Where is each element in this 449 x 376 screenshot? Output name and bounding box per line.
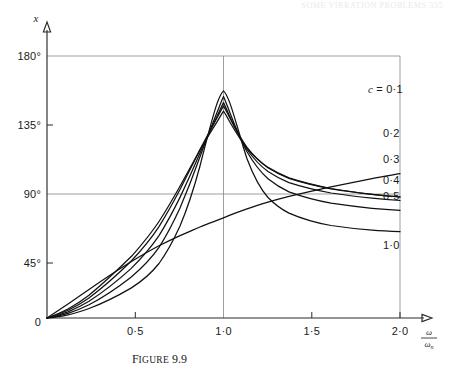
xtick-label-0-5: 0·5 [127, 325, 144, 337]
ytick-label-180: 180° [17, 50, 41, 62]
figure-caption: FIGURE 9.9 [0, 352, 319, 367]
figure-caption-number: 9.9 [172, 352, 187, 366]
y-axis-title: x [33, 12, 39, 24]
curve-label-0-2: 0·2 [383, 127, 400, 139]
xtick-label-2-0: 2·0 [392, 325, 409, 337]
x-axis-tick-labels: 0·5 1·0 1·5 2·0 [127, 325, 408, 337]
phase-angle-chart: 180° 135° 90° 45° 0 0·5 1·0 1·5 2·0 x ω … [0, 0, 449, 352]
figure-container: SOME VIBRATION PROBLEMS 335 180° 135° [0, 0, 449, 376]
x-axis-title-numerator: ω [426, 327, 432, 337]
x-axis-ticks [135, 312, 400, 318]
curve-label-1-0: 1·0 [383, 239, 400, 251]
ytick-label-135: 135° [17, 119, 41, 131]
curve-labels: c = 0·1 0·2 0·3 0·4 0·5 1·0 [368, 83, 403, 251]
y-axis-tick-labels: 180° 135° 90° 45° 0 [17, 50, 41, 328]
curve-label-0-3: 0·3 [383, 153, 400, 165]
x-axis-title-denominator: ωn [424, 339, 433, 350]
figure-caption-lead: F [132, 352, 139, 366]
axes [43, 22, 432, 322]
x-axis-title: ω ωn [421, 327, 437, 350]
grid-lines [47, 56, 400, 318]
xtick-label-1-5: 1·5 [304, 325, 321, 337]
figure-caption-word: IGURE [139, 355, 170, 365]
curve-label-0-5: 0·5 [383, 190, 400, 202]
xtick-label-1-0: 1·0 [215, 325, 232, 337]
ytick-label-0: 0 [35, 316, 41, 328]
curve-label-0-4: 0·4 [383, 174, 400, 186]
ytick-label-45: 45° [24, 257, 41, 269]
ytick-label-90: 90° [24, 188, 41, 200]
curve-label-c-0-1: c = 0·1 [368, 83, 403, 95]
